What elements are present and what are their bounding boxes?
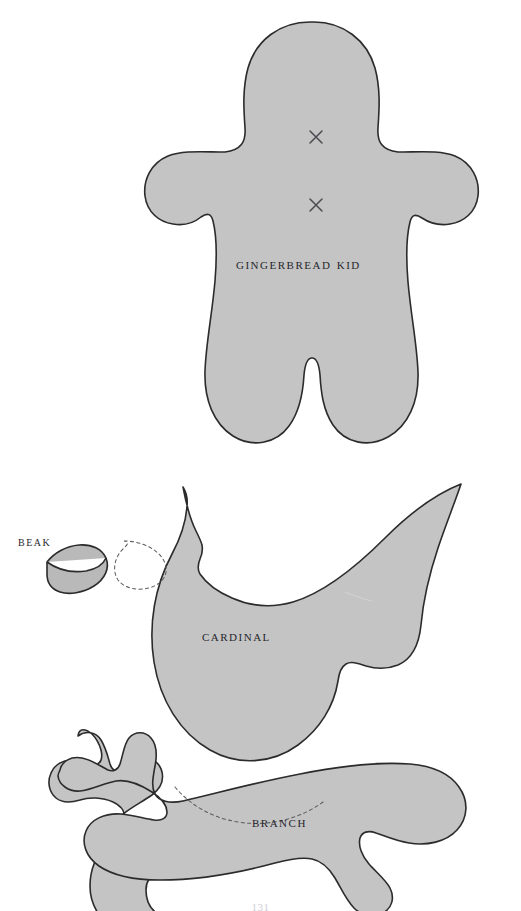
label-branch: Branch: [252, 815, 307, 830]
page-number: 131: [0, 901, 521, 911]
pattern-sheet: [0, 0, 521, 911]
piece-beak: [47, 545, 107, 593]
piece-gingerbread-kid: [145, 22, 479, 443]
gingerbread-kid-outline: [145, 22, 479, 443]
pattern-canvas: [0, 0, 521, 911]
label-cardinal: Cardinal: [202, 629, 271, 644]
cardinal-outline: [152, 484, 461, 761]
label-beak: Beak: [18, 534, 51, 549]
beak-outline: [47, 545, 107, 593]
label-gingerbread-kid: Gingerbread Kid: [236, 256, 361, 272]
cardinal-beak-placement-guide: [115, 541, 167, 589]
piece-cardinal: [115, 484, 461, 761]
